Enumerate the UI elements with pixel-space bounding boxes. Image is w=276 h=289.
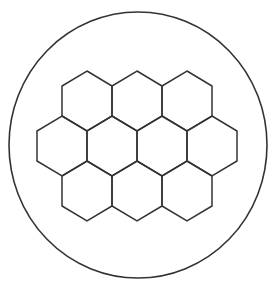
hexagon-bottom-1 [62, 161, 112, 221]
hexagon-middle-2 [87, 116, 137, 176]
hexagon-top-3 [162, 71, 212, 131]
hexagon-top-2 [112, 71, 162, 131]
hexagon-top-1 [62, 71, 112, 131]
honeycomb-diagram [0, 0, 276, 289]
hexagon-middle-3 [137, 116, 187, 176]
hexagon-bottom-2 [112, 161, 162, 221]
outer-circle [9, 12, 267, 278]
hexagon-grid [37, 71, 237, 221]
hexagon-bottom-3 [162, 161, 212, 221]
hexagon-middle-4 [187, 116, 237, 176]
hexagon-middle-1 [37, 116, 87, 176]
